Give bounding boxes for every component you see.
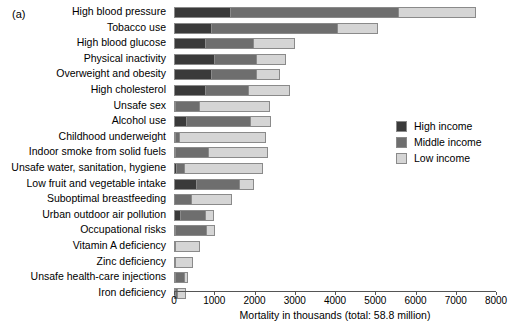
stacked-bar [174, 85, 290, 96]
x-tick-label: 6000 [404, 295, 426, 306]
category-label: Unsafe health-care injections [31, 271, 166, 281]
bar-segment-high-income [174, 7, 230, 18]
stacked-bar [174, 132, 266, 143]
stacked-bar [174, 272, 188, 283]
bar-segment-low-income [253, 38, 295, 49]
bar-segment-low-income [239, 179, 253, 190]
stacked-bar [174, 225, 215, 236]
stacked-bar [174, 163, 263, 174]
stacked-bar [174, 101, 270, 112]
bar-segment-low-income [337, 23, 378, 34]
bar-segment-high-income [174, 69, 211, 80]
x-tick-label: 7000 [445, 295, 467, 306]
bar-segment-middle-income [196, 179, 239, 190]
category-axis-labels: High blood pressureTobacco useHigh blood… [0, 4, 170, 291]
category-label: Vitamin A deficiency [73, 240, 166, 250]
bar-segment-low-income [206, 225, 216, 236]
bar-segment-middle-income [211, 69, 256, 80]
legend-item: Low income [396, 150, 482, 166]
category-label: Tobacco use [107, 22, 166, 32]
legend-label: High income [414, 120, 472, 132]
stacked-bar [174, 194, 232, 205]
category-label: Urban outdoor air pollution [42, 209, 166, 219]
bar-segment-low-income [398, 7, 476, 18]
legend-item: High income [396, 118, 482, 134]
category-label: Alcohol use [112, 115, 166, 125]
stacked-bar [174, 257, 193, 268]
bar-segment-high-income [174, 54, 214, 65]
legend-label: Middle income [414, 136, 482, 148]
category-label: Overweight and obesity [56, 68, 166, 78]
bar-segment-high-income [174, 85, 205, 96]
category-label: Occupational risks [80, 224, 166, 234]
category-label: Zinc deficiency [97, 256, 166, 266]
bar-segment-middle-income [175, 147, 208, 158]
stacked-bar [174, 54, 286, 65]
x-tick-label: 4000 [324, 295, 346, 306]
bar-segment-low-income [175, 241, 200, 252]
stacked-bar [174, 210, 214, 221]
x-tick-label: 2000 [243, 295, 265, 306]
stacked-bar [174, 38, 295, 49]
stacked-bar [174, 147, 268, 158]
bar-segment-middle-income [186, 116, 250, 127]
legend: High incomeMiddle incomeLow income [396, 118, 482, 166]
legend-swatch [396, 153, 407, 164]
x-tick-label: 3000 [284, 295, 306, 306]
legend-item: Middle income [396, 134, 482, 150]
legend-swatch [396, 121, 407, 132]
bar-segment-low-income [191, 194, 232, 205]
stacked-bar [174, 241, 200, 252]
bar-segment-low-income [177, 288, 186, 299]
bar-segment-middle-income [205, 85, 248, 96]
stacked-bar [174, 69, 280, 80]
stacked-bar [174, 116, 271, 127]
figure-panel: (a) High blood pressureTobacco useHigh b… [0, 0, 516, 327]
x-axis-title: Mortality in thousands (total: 58.8 mill… [174, 309, 496, 321]
bar-segment-middle-income [214, 54, 255, 65]
legend-swatch [396, 137, 407, 148]
bar-segment-middle-income [174, 194, 191, 205]
bar-segment-high-income [174, 23, 211, 34]
bar-segment-high-income [174, 116, 186, 127]
bar-segment-low-income [208, 147, 268, 158]
category-label: High blood pressure [72, 6, 166, 16]
category-label: Indoor smoke from solid fuels [29, 146, 166, 156]
bar-segment-low-income [250, 116, 271, 127]
bar-segment-high-income [174, 38, 205, 49]
category-label: Physical inactivity [84, 53, 166, 63]
bar-segment-low-income [256, 69, 280, 80]
category-label: Iron deficiency [98, 287, 166, 297]
category-label: Unsafe sex [113, 100, 166, 110]
legend-label: Low income [414, 152, 470, 164]
bar-segment-low-income [256, 54, 287, 65]
bar-segment-middle-income [175, 101, 199, 112]
category-label: High blood glucose [77, 37, 166, 47]
bar-segment-low-income [184, 163, 262, 174]
stacked-bar [174, 7, 476, 18]
stacked-bar [174, 179, 254, 190]
x-tick-label: 1000 [203, 295, 225, 306]
bar-segment-middle-income [230, 7, 398, 18]
x-tick-label: 5000 [364, 295, 386, 306]
category-label: Childhood underweight [59, 131, 166, 141]
bar-segment-low-income [248, 85, 290, 96]
category-label: Unsafe water, sanitation, hygiene [11, 162, 166, 172]
category-label: Suboptimal breastfeeding [47, 193, 166, 203]
bar-segment-middle-income [176, 163, 184, 174]
bar-segment-middle-income [211, 23, 336, 34]
x-tick-label: 8000 [485, 295, 507, 306]
bar-segment-middle-income [205, 38, 253, 49]
bar-segment-low-income [199, 101, 271, 112]
bar-segment-low-income [175, 257, 193, 268]
category-label: High cholesterol [91, 84, 166, 94]
x-tick-label: 0 [171, 295, 177, 306]
bar-segment-middle-income [175, 225, 206, 236]
bar-segment-low-income [205, 210, 215, 221]
bar-segment-high-income [174, 179, 196, 190]
bar-segment-low-income [179, 132, 266, 143]
category-label: Low fruit and vegetable intake [26, 178, 166, 188]
bar-segment-middle-income [175, 272, 184, 283]
bar-segment-low-income [184, 272, 188, 283]
stacked-bar [174, 23, 378, 34]
